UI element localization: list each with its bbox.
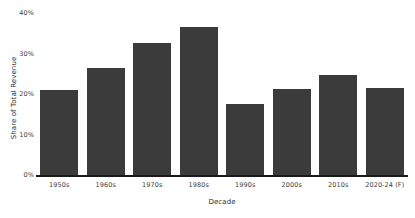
- x-axis-tick-label: 1960s: [83, 181, 130, 189]
- y-axis-title: Share of Total Revenue: [10, 38, 18, 158]
- bar[interactable]: [273, 89, 311, 175]
- y-axis-title-wrapper: Share of Total Revenue: [0, 0, 30, 190]
- bar[interactable]: [366, 88, 404, 175]
- bar-slot: [129, 13, 176, 175]
- bar-slot: [222, 13, 269, 175]
- bar-slot: [362, 13, 409, 175]
- x-axis-tick-label: 1980s: [176, 181, 223, 189]
- x-axis-tick-label: 1970s: [129, 181, 176, 189]
- bar[interactable]: [226, 104, 264, 175]
- bar[interactable]: [180, 27, 218, 175]
- bar[interactable]: [40, 90, 78, 175]
- x-axis-tick-label: 2010s: [315, 181, 362, 189]
- x-axis-tick-label: 1990s: [222, 181, 269, 189]
- x-axis-title: Decade: [36, 198, 408, 206]
- bar-slot: [269, 13, 316, 175]
- x-axis-tick-label: 2020-24 (F): [362, 181, 409, 189]
- bar-chart-figure: 0%10%20%30%40% Share of Total Revenue 19…: [0, 0, 415, 218]
- bar-slot: [315, 13, 362, 175]
- bar-slot: [83, 13, 130, 175]
- x-axis-line: [36, 175, 408, 177]
- bar[interactable]: [87, 68, 125, 175]
- bar-slot: [176, 13, 223, 175]
- bar[interactable]: [319, 75, 357, 175]
- bar[interactable]: [133, 43, 171, 175]
- bar-slot: [36, 13, 83, 175]
- x-axis-tick-label: 2000s: [269, 181, 316, 189]
- plot-area: [36, 13, 408, 175]
- x-axis-tick-label: 1950s: [36, 181, 83, 189]
